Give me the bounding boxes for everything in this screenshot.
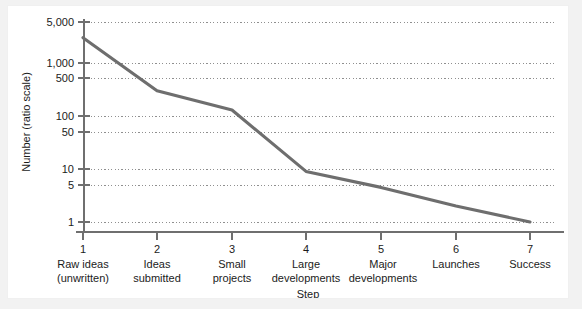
chart-plate: 5,000 1,000 500 100 50 10 5 1 Number (ra… — [8, 6, 568, 298]
category-label-4-line1: Large — [292, 258, 320, 270]
ytick-label-10: 10 — [62, 163, 74, 175]
category-label-2-line1: Ideas — [144, 258, 171, 270]
category-label-3-line2: projects — [213, 272, 252, 284]
category-label-3-line1: Small — [218, 258, 246, 270]
line-chart[interactable]: 5,000 1,000 500 100 50 10 5 1 Number (ra… — [8, 6, 568, 298]
ytick-label-1000: 1,000 — [46, 57, 74, 69]
xtick-label-2: 2 — [154, 243, 160, 255]
ytick-label-100: 100 — [56, 110, 74, 122]
category-label-2-line2: submitted — [133, 272, 181, 284]
ytick-label-1: 1 — [68, 216, 74, 228]
category-label-5-line2: developments — [349, 272, 418, 284]
plot-background — [8, 6, 568, 298]
category-label-1-line1: Raw ideas — [57, 258, 109, 270]
x-axis-title: Step — [297, 288, 320, 298]
category-label-1-line2: (unwritten) — [57, 272, 109, 284]
xtick-label-1: 1 — [80, 243, 86, 255]
xtick-label-7: 7 — [527, 243, 533, 255]
figure-container: 5,000 1,000 500 100 50 10 5 1 Number (ra… — [0, 0, 582, 309]
ytick-label-500: 500 — [56, 72, 74, 84]
ytick-label-5000: 5,000 — [46, 16, 74, 28]
category-label-7-line1: Success — [509, 258, 551, 270]
category-label-5-line1: Major — [369, 258, 397, 270]
xtick-label-4: 4 — [303, 243, 309, 255]
xtick-label-5: 5 — [378, 243, 384, 255]
ytick-label-5: 5 — [68, 179, 74, 191]
category-label-4-line2: developments — [272, 272, 341, 284]
y-axis-title: Number (ratio scale) — [20, 72, 32, 172]
xtick-label-3: 3 — [229, 243, 235, 255]
ytick-label-50: 50 — [62, 126, 74, 138]
category-label-6-line1: Launches — [432, 258, 480, 270]
xtick-label-6: 6 — [453, 243, 459, 255]
